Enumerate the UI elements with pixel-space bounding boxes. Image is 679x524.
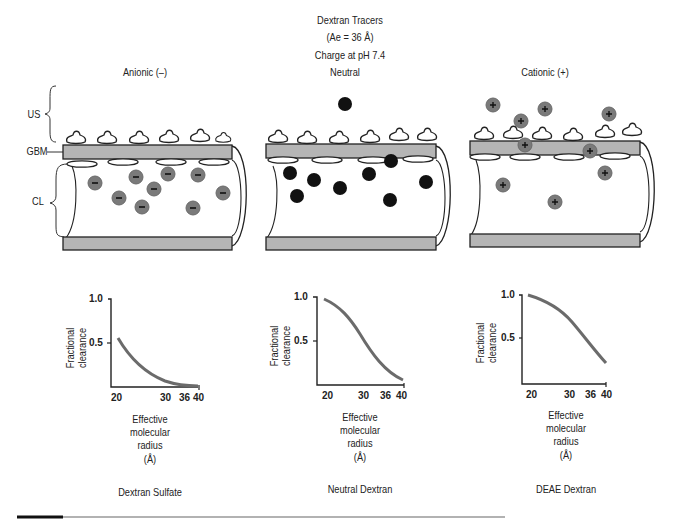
capillary-neutral [266,128,450,250]
chart3-xtick-30: 30 [564,389,575,400]
ylabel-line1: Fractional [268,320,280,373]
anionic-particles [88,167,230,215]
chart1-caption: Dextran Sulfate [106,486,194,498]
chart-dextran-sulfate [107,299,199,390]
chart2-caption: Neutral Dextran [316,483,404,495]
xlabel-line4: (Å) [115,453,185,466]
xlabel-line2: molecular [115,426,185,439]
chart3-xlabel: Effective molecular radius (Å) [531,409,601,462]
xlabel-line3: radius [531,435,601,448]
chart1-ylabel: Fractional clearance [64,322,88,375]
chart1-ytick-1: 1.0 [89,293,103,304]
xlabel-line1: Effective [115,413,185,426]
chart1-xtick-20: 20 [111,392,122,403]
xlabel-line4: (Å) [531,449,601,462]
xlabel-line2: molecular [325,424,395,437]
xlabel-line1: Effective [325,411,395,424]
chart3-xtick-40: 40 [601,389,612,400]
chart3-caption: DEAE Dextran [522,483,610,495]
chart2-xtick-20: 20 [322,390,333,401]
chart1-xtick-30: 30 [160,392,171,403]
ylabel-line2: clearance [486,317,498,370]
chart2-ylabel: Fractional clearance [268,320,292,373]
chart1-xtick-40: 40 [193,392,204,403]
chart1-xtick-36: 36 [179,392,190,403]
chart1-xlabel: Effective molecular radius (Å) [115,413,185,466]
chart3-ylabel: Fractional clearance [474,317,498,370]
ylabel-line1: Fractional [474,317,486,370]
chart2-xtick-30: 30 [358,390,369,401]
xlabel-line2: molecular [531,422,601,435]
chart-neutral-dextran [313,297,404,388]
chart3-ytick-05: 0.5 [501,332,515,343]
chart-deae-dextran [519,295,606,387]
xlabel-line4: (Å) [325,451,395,464]
chart1-ytick-05: 0.5 [89,337,103,348]
xlabel-line3: radius [325,437,395,450]
brace-us [45,86,56,142]
chart3-ytick-1: 1.0 [501,289,515,300]
ylabel-line1: Fractional [64,322,76,375]
ylabel-line2: clearance [280,320,292,373]
chart2-ytick-05: 0.5 [294,335,308,346]
chart3-xtick-20: 20 [526,389,537,400]
brace-cl [50,164,68,237]
chart2-xtick-36: 36 [380,390,391,401]
chart2-xtick-40: 40 [396,390,407,401]
chart2-ytick-1: 1.0 [294,291,308,302]
chart3-xtick-36: 36 [585,389,596,400]
xlabel-line1: Effective [531,409,601,422]
ylabel-line2: clearance [76,322,88,375]
xlabel-line3: radius [115,439,185,452]
chart2-xlabel: Effective molecular radius (Å) [325,411,395,464]
